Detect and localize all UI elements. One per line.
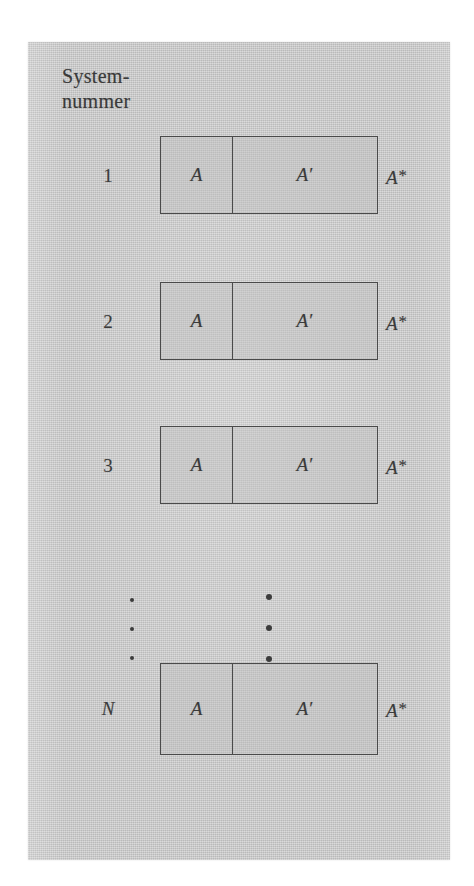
figure-panel: System- nummer 1 A A′ A* 2 A bbox=[28, 42, 450, 860]
box-cell-a-2: A bbox=[161, 283, 233, 359]
system-box-n: A A′ bbox=[160, 663, 378, 755]
cell-a-prime-mark-n: ′ bbox=[309, 698, 313, 720]
ellipsis-dot bbox=[266, 656, 272, 662]
system-box-2: A A′ bbox=[160, 282, 378, 360]
box-cell-a-3: A bbox=[161, 427, 233, 503]
ellipsis-dot bbox=[130, 627, 134, 631]
figure-caption: System- nummer bbox=[62, 64, 130, 114]
box-cell-a-prime-n: A′ bbox=[233, 664, 377, 754]
cell-a-prime-mark-3: ′ bbox=[309, 454, 313, 476]
cell-a-prime-label-1: A bbox=[297, 164, 309, 186]
caption-line-2: nummer bbox=[62, 89, 130, 114]
cell-a-label-2: A bbox=[191, 310, 203, 332]
a-star-mark-1: * bbox=[399, 166, 408, 185]
cell-a-prime-label-3: A bbox=[297, 454, 309, 476]
system-box-1: A A′ bbox=[160, 136, 378, 214]
a-star-letter-1: A bbox=[386, 167, 398, 188]
cell-a-prime-label-n: A bbox=[297, 698, 309, 720]
a-star-label-2: A* bbox=[386, 312, 440, 333]
a-star-label-1: A* bbox=[386, 166, 440, 187]
ellipsis-dot bbox=[266, 594, 272, 600]
a-star-label-n: A* bbox=[386, 699, 440, 720]
cell-a-prime-label-2: A bbox=[297, 310, 309, 332]
system-number-label-3: 3 bbox=[80, 456, 136, 475]
cell-a-prime-mark-1: ′ bbox=[309, 164, 313, 186]
system-number-label-n: N bbox=[80, 699, 136, 718]
ellipsis-dot bbox=[130, 598, 134, 602]
a-star-mark-2: * bbox=[399, 312, 408, 331]
caption-line-1: System- bbox=[62, 64, 130, 89]
a-star-mark-3: * bbox=[399, 456, 408, 475]
vertical-ellipsis-left bbox=[104, 598, 160, 660]
box-cell-a-n: A bbox=[161, 664, 233, 754]
box-cell-a-prime-3: A′ bbox=[233, 427, 377, 503]
ellipsis-dot bbox=[266, 625, 272, 631]
system-row-3: 3 A A′ A* bbox=[28, 426, 450, 504]
system-box-3: A A′ bbox=[160, 426, 378, 504]
system-row-n: N A A′ A* bbox=[28, 663, 450, 755]
scanned-page: System- nummer 1 A A′ A* 2 A bbox=[0, 0, 474, 886]
system-row-2: 2 A A′ A* bbox=[28, 282, 450, 360]
a-star-letter-n: A bbox=[386, 700, 398, 721]
vertical-ellipsis-right bbox=[241, 594, 297, 662]
a-star-mark-n: * bbox=[399, 699, 408, 718]
a-star-letter-3: A bbox=[386, 457, 398, 478]
a-star-label-3: A* bbox=[386, 456, 440, 477]
a-star-letter-2: A bbox=[386, 313, 398, 334]
system-row-1: 1 A A′ A* bbox=[28, 136, 450, 214]
ellipsis-dot bbox=[130, 656, 134, 660]
cell-a-label-1: A bbox=[191, 164, 203, 186]
box-cell-a-prime-2: A′ bbox=[233, 283, 377, 359]
cell-a-prime-mark-2: ′ bbox=[309, 310, 313, 332]
box-cell-a-1: A bbox=[161, 137, 233, 213]
system-number-label-2: 2 bbox=[80, 312, 136, 331]
box-cell-a-prime-1: A′ bbox=[233, 137, 377, 213]
system-number-label-1: 1 bbox=[80, 166, 136, 185]
cell-a-label-3: A bbox=[191, 454, 203, 476]
cell-a-label-n: A bbox=[191, 698, 203, 720]
